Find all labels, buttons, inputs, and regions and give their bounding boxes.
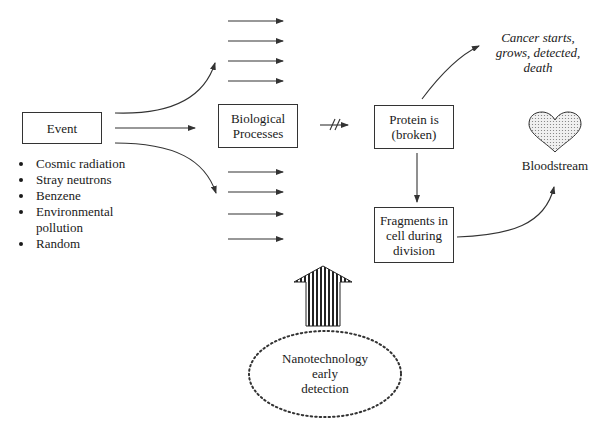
cause-item: Cosmic radiation: [34, 156, 125, 172]
heart-icon: [529, 112, 581, 152]
event-causes-list: Cosmic radiation Stray neutrons Benzene …: [20, 156, 125, 252]
bloodstream-label: Bloodstream: [515, 158, 595, 173]
biological-processes-line1: Biological: [231, 111, 285, 126]
nanotech-text: Nanotechnology early detection: [265, 351, 385, 396]
cancer-outcome-text: Cancer starts, grows, detected, death: [488, 30, 588, 75]
diagram-canvas: Event Cosmic radiation Stray neutrons Be…: [0, 0, 606, 443]
broken-arrow: [320, 119, 348, 130]
lower-parallel-arrows: [228, 172, 283, 239]
protein-box: Protein is (broken): [374, 105, 454, 149]
protein-line2: (broken): [392, 127, 437, 142]
fragments-line1: Fragments in: [380, 213, 448, 228]
fragments-line3: division: [393, 243, 435, 258]
biological-processes-box: Biological Processes: [218, 104, 298, 148]
protein-to-cancer-arrow: [422, 46, 479, 99]
nanotech-block-arrow: [294, 266, 352, 326]
event-label: Event: [47, 121, 77, 136]
upper-parallel-arrows: [228, 21, 283, 81]
cause-item: Benzene: [34, 188, 125, 204]
fragments-to-bloodstream-arrow: [457, 187, 554, 237]
fragments-line2: cell during: [386, 228, 442, 243]
cause-item: Random: [34, 236, 125, 252]
event-box: Event: [22, 112, 102, 144]
cause-item: Stray neutrons: [34, 172, 125, 188]
cause-item: Environmental pollution: [34, 204, 125, 236]
biological-processes-line2: Processes: [233, 126, 284, 141]
fragments-box: Fragments in cell during division: [374, 207, 454, 263]
protein-line1: Protein is: [389, 112, 438, 127]
event-arrows: [115, 63, 216, 193]
